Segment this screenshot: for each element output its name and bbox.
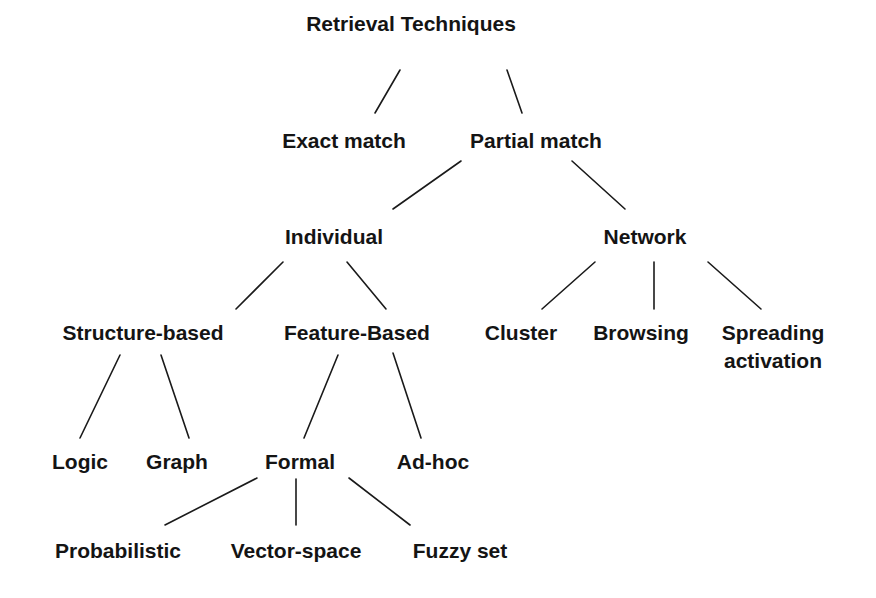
node-label-line: Spreading — [722, 321, 825, 344]
node-label-line: Probabilistic — [55, 539, 181, 562]
node-label-line: Logic — [52, 450, 108, 473]
node-label-line: Feature-Based — [284, 321, 430, 344]
node-root: Retrieval Techniques — [306, 12, 516, 35]
node-label-line: Cluster — [485, 321, 557, 344]
node-label-line: activation — [724, 349, 822, 372]
node-logic: Logic — [52, 450, 108, 473]
node-network: Network — [604, 225, 687, 248]
node-label-line: Exact match — [282, 129, 406, 152]
edge-structure-to-logic — [80, 355, 120, 438]
node-label-line: Browsing — [593, 321, 689, 344]
edge-partial-to-network — [572, 161, 625, 209]
node-feature: Feature-Based — [284, 321, 430, 344]
node-structure: Structure-based — [62, 321, 223, 344]
retrieval-techniques-tree: Retrieval TechniquesExact matchPartial m… — [0, 0, 876, 598]
edge-individual-to-structure — [236, 262, 283, 309]
node-partial: Partial match — [470, 129, 602, 152]
edge-structure-to-graph — [161, 355, 189, 438]
node-exact: Exact match — [282, 129, 406, 152]
edge-feature-to-adhoc — [393, 353, 421, 438]
node-label-line: Structure-based — [62, 321, 223, 344]
edge-root-to-partial — [507, 70, 522, 113]
node-vectorspace: Vector-space — [231, 539, 362, 562]
node-individual: Individual — [285, 225, 383, 248]
edge-root-to-exact — [375, 70, 400, 113]
node-label-line: Fuzzy set — [413, 539, 508, 562]
edge-formal-to-probabilistic — [165, 478, 257, 525]
node-spreading: Spreadingactivation — [722, 321, 825, 372]
node-formal: Formal — [265, 450, 335, 473]
edge-network-to-cluster — [542, 262, 595, 309]
node-label-line: Ad-hoc — [397, 450, 470, 473]
node-adhoc: Ad-hoc — [397, 450, 470, 473]
node-label-line: Vector-space — [231, 539, 362, 562]
edge-individual-to-feature — [347, 262, 386, 309]
edge-partial-to-individual — [393, 161, 461, 209]
edge-feature-to-formal — [304, 355, 338, 438]
node-label-line: Formal — [265, 450, 335, 473]
node-fuzzyset: Fuzzy set — [413, 539, 508, 562]
node-browsing: Browsing — [593, 321, 689, 344]
node-cluster: Cluster — [485, 321, 557, 344]
node-label-line: Network — [604, 225, 687, 248]
node-probabilistic: Probabilistic — [55, 539, 181, 562]
edge-formal-to-fuzzyset — [349, 478, 410, 525]
edge-network-to-spreading — [708, 262, 761, 309]
node-label-line: Individual — [285, 225, 383, 248]
node-label-line: Retrieval Techniques — [306, 12, 516, 35]
node-label-line: Graph — [146, 450, 208, 473]
node-graph: Graph — [146, 450, 208, 473]
nodes-layer: Retrieval TechniquesExact matchPartial m… — [52, 12, 824, 562]
node-label-line: Partial match — [470, 129, 602, 152]
